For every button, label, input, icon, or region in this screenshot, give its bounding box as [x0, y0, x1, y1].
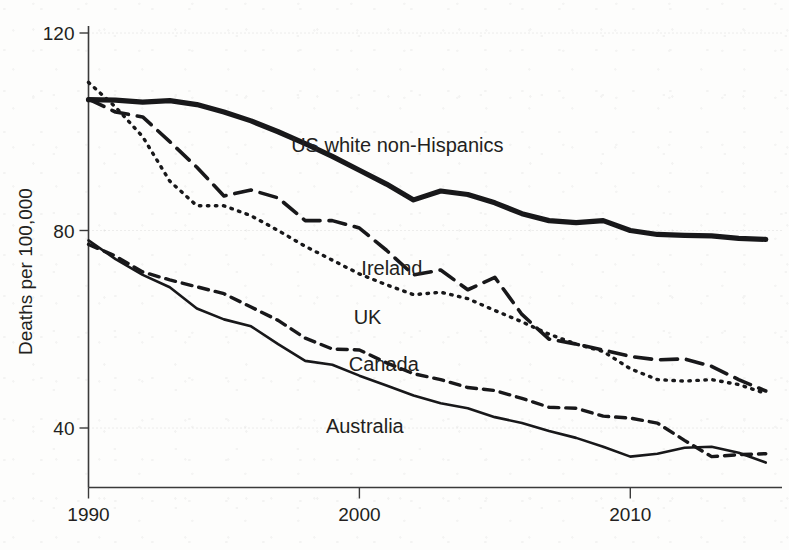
series-label-canada: Canada	[349, 353, 420, 375]
series-line-canada	[89, 244, 766, 456]
series-labels-group: US white non-HispanicsIrelandUKCanadaAus…	[291, 134, 503, 437]
y-tick-label-40: 40	[53, 418, 74, 439]
line-chart: 4080120 199020002010 US white non-Hispan…	[0, 0, 789, 550]
series-label-us-white-non-hispanics: US white non-Hispanics	[291, 134, 503, 156]
x-tick-label-2000: 2000	[338, 504, 380, 525]
series-label-uk: UK	[354, 306, 382, 328]
y-tick-label-80: 80	[53, 221, 74, 242]
series-label-australia: Australia	[326, 415, 405, 437]
gridlines-group	[89, 33, 783, 428]
series-line-uk	[89, 82, 766, 393]
x-tick-label-1990: 1990	[67, 504, 109, 525]
y-tick-group: 4080120	[43, 23, 89, 439]
series-line-us-white-non-hispanics	[89, 100, 766, 240]
axes-group	[89, 26, 783, 488]
x-tick-group: 199020002010	[67, 488, 651, 525]
y-tick-label-120: 120	[43, 23, 75, 44]
series-label-ireland: Ireland	[361, 257, 422, 279]
x-tick-label-2010: 2010	[609, 504, 651, 525]
y-axis-title: Deaths per 100,000	[15, 188, 36, 355]
figure-container: 4080120 199020002010 US white non-Hispan…	[0, 0, 789, 550]
